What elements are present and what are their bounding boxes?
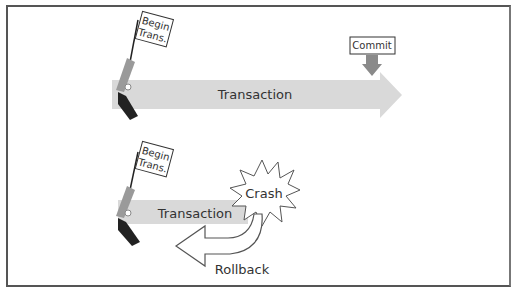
bottom-transaction-arrow: Transaction: [118, 200, 248, 224]
transaction-diagram: Transaction Begin Trans. Commit Transact…: [0, 0, 519, 292]
crash-label: Crash: [245, 186, 282, 201]
begin-trans-flag: Begin Trans.: [135, 11, 173, 46]
rollback-label: Rollback: [215, 262, 270, 277]
bottom-arrow-label: Transaction: [157, 206, 232, 221]
top-transaction-arrow: Transaction: [112, 72, 402, 118]
begin-trans-flag: Begin Trans.: [135, 141, 173, 176]
commit-marker: Commit: [350, 37, 395, 76]
top-arrow-label: Transaction: [217, 87, 292, 102]
commit-label: Commit: [352, 40, 391, 51]
